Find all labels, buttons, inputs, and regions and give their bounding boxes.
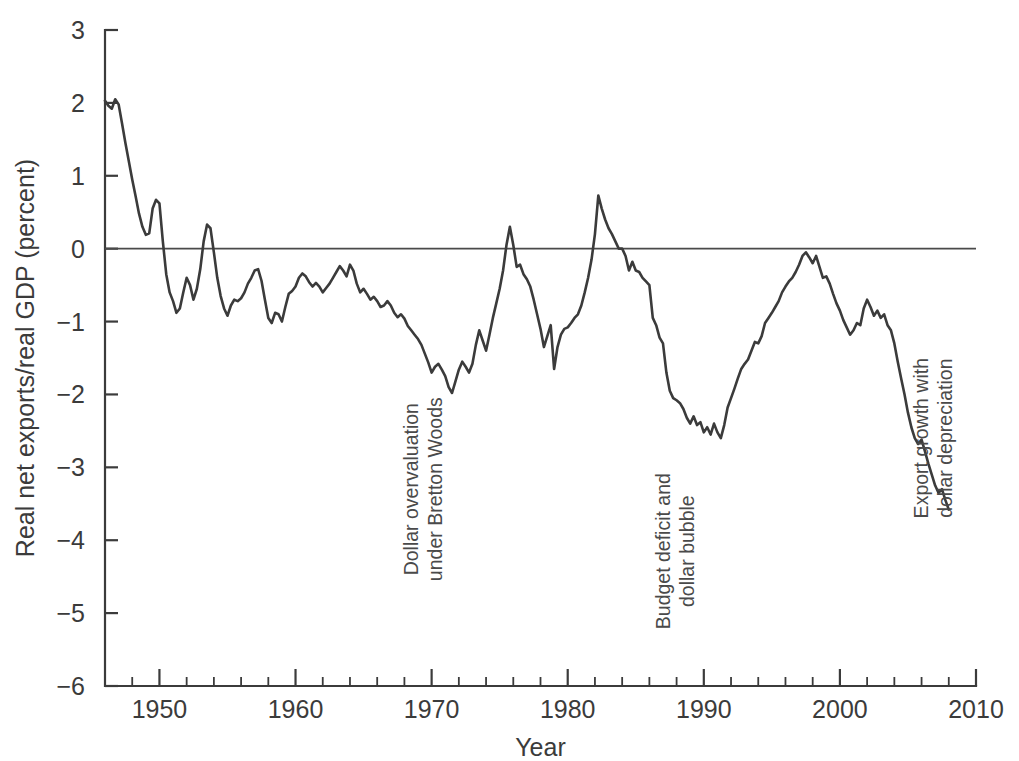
y-tick-label-0: 0 [71,235,85,263]
chart-annotations: Dollar overvaluationunder Bretton WoodsB… [400,358,956,629]
annotation-line: Dollar overvaluation [400,403,422,575]
chart-figure: 3210−1−2−3−4−5−6 19501960197019801990200… [0,0,1019,761]
y-tick-label-neg1: −1 [56,308,85,336]
x-tick-label-2010: 2010 [948,695,1004,723]
x-tick-labels: 1950196019701980199020002010 [132,695,1004,723]
series-line-net-exports [105,99,949,509]
x-tick-label-1980: 1980 [540,695,596,723]
x-tick-label-1950: 1950 [132,695,188,723]
y-tick-label-3: 3 [71,16,85,44]
annotation-line: under Bretton Woods [424,397,446,581]
y-tick-label-neg5: −5 [56,599,85,627]
x-tick-label-2000: 2000 [812,695,868,723]
annotation-line: dollar bubble [676,495,698,607]
annotation-export-growth: Export growth withdollar depreciation [910,358,956,518]
line-chart-svg: 3210−1−2−3−4−5−6 19501960197019801990200… [0,0,1019,761]
y-axis-title: Real net exports/real GDP (percent) [11,159,39,557]
x-tick-label-1960: 1960 [268,695,324,723]
y-tick-label-neg2: −2 [56,380,85,408]
axes-layer [105,30,976,686]
annotation-line: Export growth with [910,358,932,518]
x-axis-title: Year [515,733,566,761]
annotation-line: Budget deficit and [652,473,674,629]
y-tick-label-neg6: −6 [56,672,85,700]
x-tick-label-1970: 1970 [404,695,460,723]
y-tick-labels: 3210−1−2−3−4−5−6 [56,16,85,700]
annotation-line: dollar depreciation [934,358,956,517]
annotation-budget-deficit: Budget deficit anddollar bubble [652,473,698,629]
y-tick-label-2: 2 [71,89,85,117]
y-tick-label-neg3: −3 [56,453,85,481]
data-series-layer [105,99,949,509]
y-tick-label-1: 1 [71,162,85,190]
x-tick-label-1990: 1990 [676,695,732,723]
axis-spines [105,30,976,686]
y-tick-label-neg4: −4 [56,526,85,554]
annotation-bretton-woods: Dollar overvaluationunder Bretton Woods [400,397,446,581]
